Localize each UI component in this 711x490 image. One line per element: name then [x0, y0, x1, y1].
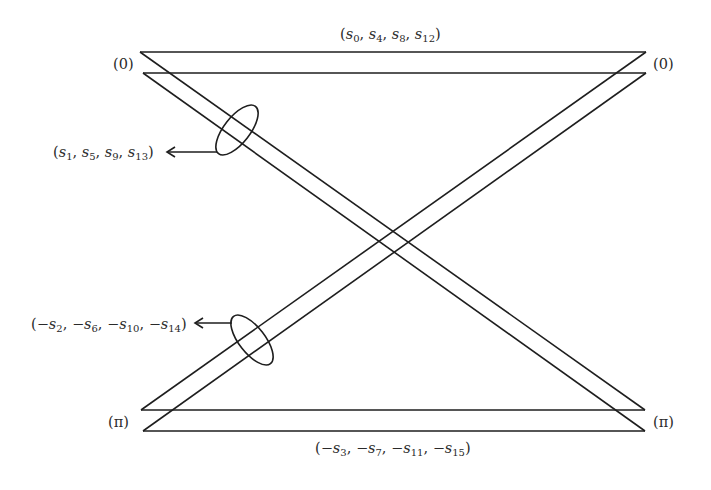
node-label-bottom-left: (π): [108, 415, 129, 430]
symbol-subscript: 4: [376, 33, 382, 44]
crossover-diagram: [0, 0, 711, 490]
symbol-subscript: 13: [135, 151, 148, 162]
symbol-variable: s: [59, 144, 66, 160]
symbol-subscript: 1: [66, 151, 72, 162]
node-label-bottom-right: (π): [653, 415, 674, 430]
symbol-subscript: 11: [411, 447, 424, 458]
symbol-subscript: 2: [56, 323, 62, 334]
symbol-variable: s: [119, 316, 126, 332]
node-label-top-right: (0): [653, 57, 674, 72]
symbol-subscript: 5: [89, 151, 95, 162]
symbol-subscript: 3: [340, 447, 346, 458]
symbol-subscript: 6: [91, 323, 97, 334]
symbol-subscript: 8: [399, 33, 405, 44]
symbol-subscript: 15: [452, 447, 465, 458]
symbol-subscript: 10: [127, 323, 140, 334]
group-label-upper-left: (s1, s5, s9, s13): [53, 145, 154, 160]
group-label-top: (s0, s4, s8, s12): [340, 27, 441, 42]
node-label-top-left: (0): [113, 57, 134, 72]
group-label-lower-left: (−s2, −s6, −s10, −s14): [31, 317, 187, 332]
symbol-variable: s: [346, 26, 353, 42]
symbol-subscript: 9: [112, 151, 118, 162]
symbol-subscript: 12: [422, 33, 435, 44]
symbol-subscript: 0: [353, 33, 359, 44]
group-label-bottom: (−s3, −s7, −s11, −s15): [315, 441, 471, 456]
symbol-subscript: 7: [375, 447, 381, 458]
symbol-subscript: 14: [168, 323, 181, 334]
symbol-variable: s: [403, 440, 410, 456]
